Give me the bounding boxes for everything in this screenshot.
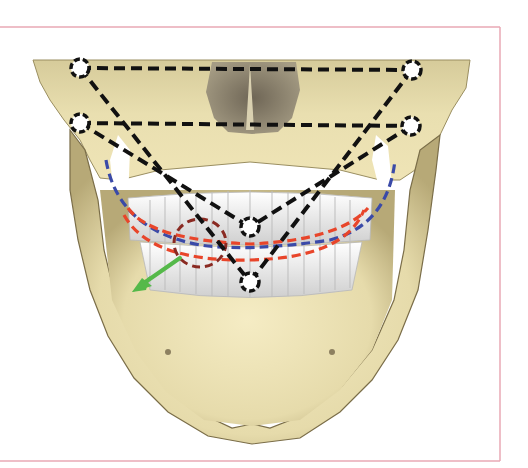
- landmark-upper-incisor: [241, 218, 259, 236]
- skull-diagram: [0, 0, 528, 468]
- landmark-lower-incisor: [241, 273, 259, 291]
- landmark-top-left: [71, 59, 89, 77]
- landmark-top-right: [403, 61, 421, 79]
- mental-foramen-right: [329, 349, 335, 355]
- mental-foramen-left: [165, 349, 171, 355]
- landmark-mid-right: [402, 117, 420, 135]
- figure-canvas: Frontal view of skull (maxilla and mandi…: [0, 0, 528, 468]
- landmark-mid-left: [71, 114, 89, 132]
